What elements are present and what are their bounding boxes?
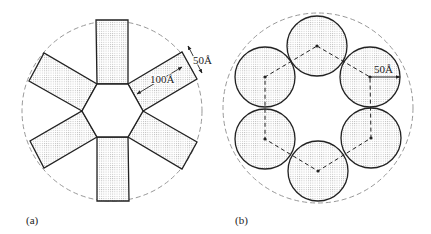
- center-dot: [315, 44, 318, 47]
- diagram-canvas: 50Å100Å 50Å (a) (b): [0, 0, 431, 234]
- dimension-label: 100Å: [150, 73, 175, 85]
- rod-arm: [96, 20, 128, 84]
- panel-a-label: (a): [26, 214, 39, 227]
- panel-b-label: (b): [235, 214, 248, 227]
- dimension-label: 50Å: [193, 54, 212, 66]
- radius-label: 50Å: [374, 63, 393, 75]
- rod-arm: [97, 137, 129, 201]
- figure: 50Å100Å 50Å (a) (b): [0, 0, 431, 234]
- center-dot: [263, 137, 266, 140]
- panel-a-micelle-rods: 50Å100Å: [22, 20, 212, 201]
- center-dot: [369, 136, 372, 139]
- center-dot: [263, 75, 266, 78]
- center-dot: [316, 169, 319, 172]
- panel-b-micelle-spheres: 50Å: [223, 13, 413, 203]
